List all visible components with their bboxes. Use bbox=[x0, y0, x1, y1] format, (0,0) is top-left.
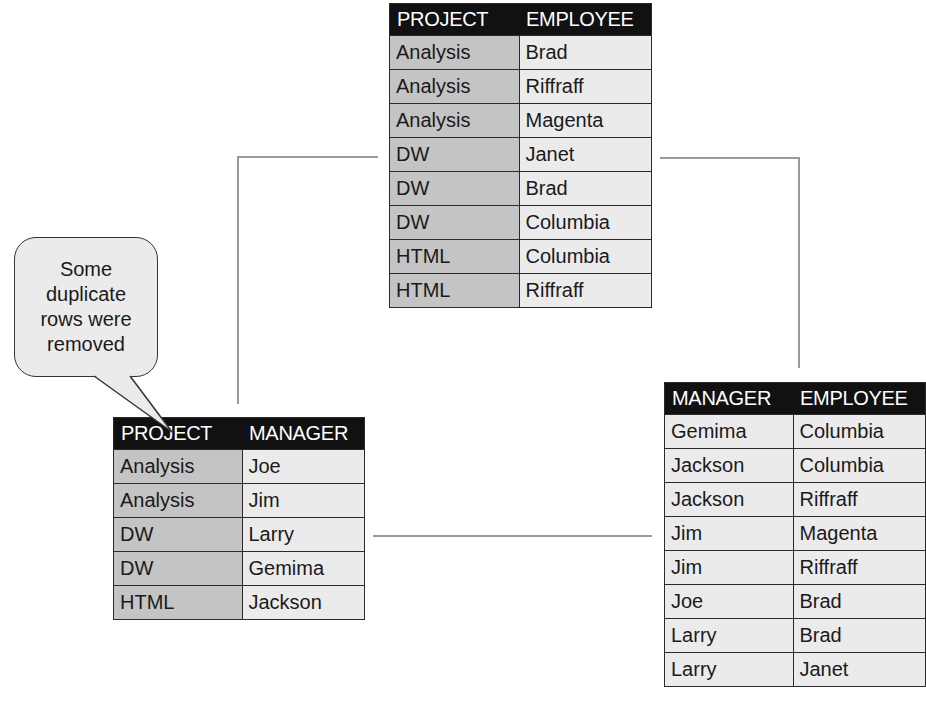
callout-tail-icon bbox=[0, 0, 918, 701]
